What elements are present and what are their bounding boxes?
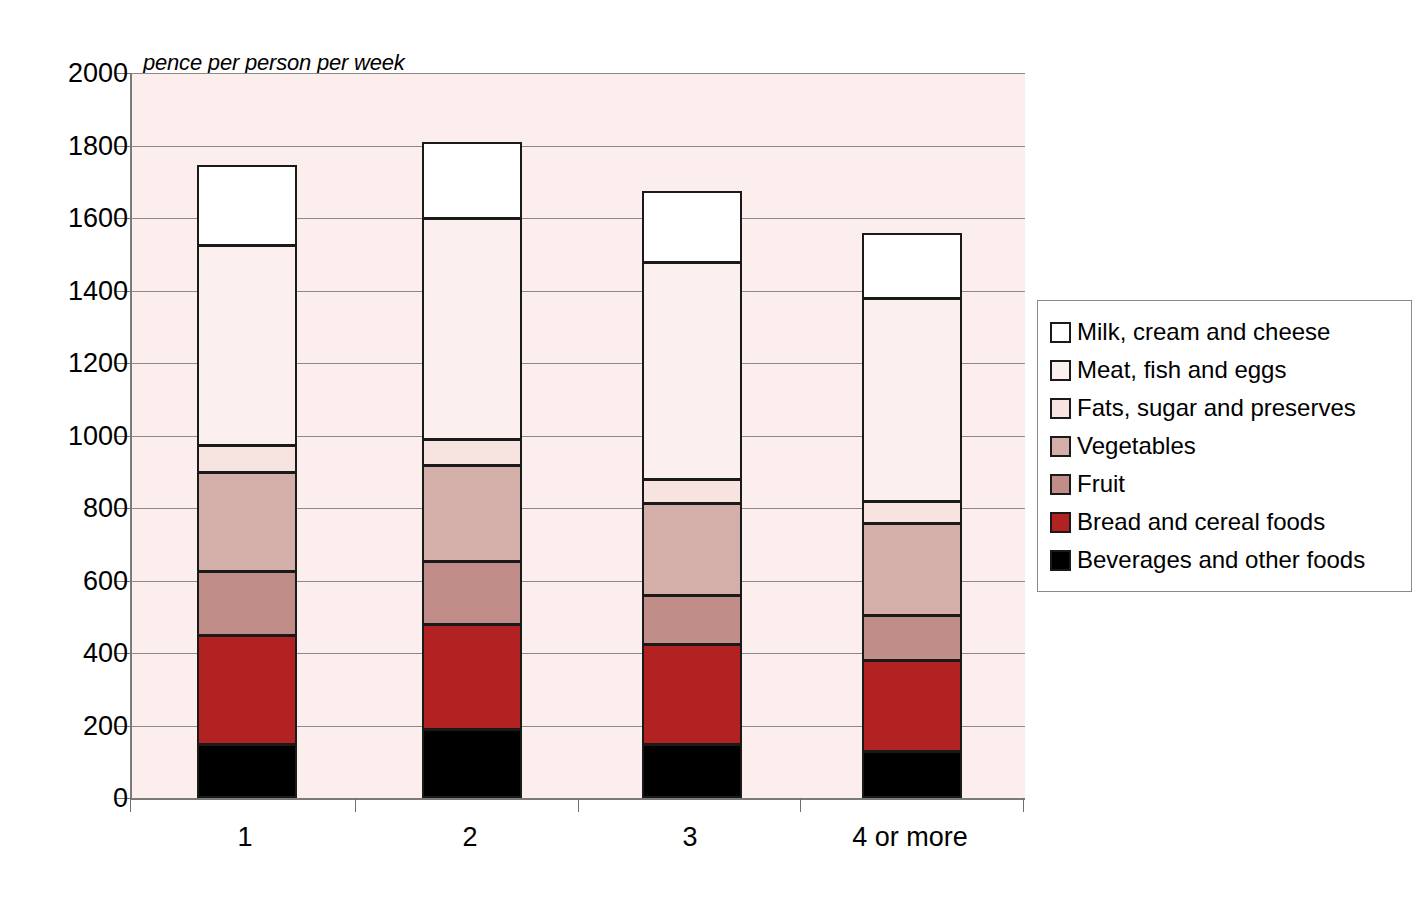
bar-segment[interactable]	[642, 503, 742, 595]
bar-segment[interactable]	[642, 595, 742, 644]
bar-segment[interactable]	[422, 624, 522, 729]
bar-stack[interactable]	[422, 73, 522, 798]
bar-segment[interactable]	[422, 218, 522, 439]
y-axis-tick-label: 1000	[8, 420, 128, 451]
bar-segment[interactable]	[197, 635, 297, 744]
bar-segment[interactable]	[862, 233, 962, 298]
x-axis-tick-label: 4 or more	[790, 822, 1030, 853]
legend-swatch-icon	[1050, 398, 1071, 419]
bar-segment[interactable]	[422, 561, 522, 624]
bar-segment[interactable]	[197, 472, 297, 572]
plot-area	[130, 73, 1025, 798]
y-axis-tick-label: 1800	[8, 130, 128, 161]
chart-container: pence per person per week 20001800160014…	[0, 0, 1422, 904]
x-axis-tick-mark	[800, 798, 801, 812]
legend-swatch-icon	[1050, 360, 1071, 381]
x-axis-tick-label: 2	[350, 822, 590, 853]
bar-segment[interactable]	[422, 465, 522, 561]
legend-item-label: Fruit	[1077, 472, 1125, 496]
legend-item[interactable]: Fruit	[1050, 465, 1401, 503]
legend-item-label: Fats, sugar and preserves	[1077, 396, 1356, 420]
y-axis-tick-label: 1400	[8, 275, 128, 306]
legend-item[interactable]: Fats, sugar and preserves	[1050, 389, 1401, 427]
bar-segment[interactable]	[862, 751, 962, 798]
x-axis-tick-mark	[355, 798, 356, 812]
legend-item-label: Bread and cereal foods	[1077, 510, 1325, 534]
bar-stack[interactable]	[862, 73, 962, 798]
legend-item-label: Milk, cream and cheese	[1077, 320, 1330, 344]
bar-segment[interactable]	[862, 501, 962, 523]
bar-segment[interactable]	[197, 245, 297, 444]
y-axis-tick-label: 2000	[8, 58, 128, 89]
legend-item[interactable]: Milk, cream and cheese	[1050, 313, 1401, 351]
legend: Milk, cream and cheeseMeat, fish and egg…	[1037, 300, 1412, 592]
y-axis-tick-label: 800	[8, 493, 128, 524]
x-axis-tick-mark	[578, 798, 579, 812]
legend-item[interactable]: Bread and cereal foods	[1050, 503, 1401, 541]
bar-segment[interactable]	[422, 729, 522, 798]
y-axis-tick-label: 1600	[8, 203, 128, 234]
x-axis-tick-label: 3	[570, 822, 810, 853]
bar-segment[interactable]	[642, 479, 742, 503]
y-axis-tick-label: 200	[8, 710, 128, 741]
bar-segment[interactable]	[642, 644, 742, 744]
legend-swatch-icon	[1050, 474, 1071, 495]
x-axis-tick-mark	[1023, 798, 1024, 812]
legend-swatch-icon	[1050, 436, 1071, 457]
bar-segment[interactable]	[642, 191, 742, 262]
legend-item[interactable]: Meat, fish and eggs	[1050, 351, 1401, 389]
bar-segment[interactable]	[862, 660, 962, 751]
x-axis-tick-label: 1	[125, 822, 365, 853]
x-axis-tick-mark	[130, 798, 131, 812]
bar-segment[interactable]	[642, 744, 742, 798]
legend-item-label: Vegetables	[1077, 434, 1196, 458]
bar-stack[interactable]	[197, 73, 297, 798]
legend-item-label: Meat, fish and eggs	[1077, 358, 1286, 382]
bar-stack[interactable]	[642, 73, 742, 798]
legend-swatch-icon	[1050, 512, 1071, 533]
y-axis-tick-label: 400	[8, 638, 128, 669]
y-axis-tick-label: 600	[8, 565, 128, 596]
y-axis-tick-label: 1200	[8, 348, 128, 379]
bar-segment[interactable]	[862, 523, 962, 615]
y-axis-tick-label: 0	[8, 783, 128, 814]
legend-item[interactable]: Vegetables	[1050, 427, 1401, 465]
bar-segment[interactable]	[197, 165, 297, 245]
bar-segment[interactable]	[642, 262, 742, 480]
legend-swatch-icon	[1050, 322, 1071, 343]
bar-segment[interactable]	[422, 439, 522, 464]
bar-segment[interactable]	[862, 615, 962, 660]
bar-segment[interactable]	[197, 571, 297, 634]
legend-swatch-icon	[1050, 550, 1071, 571]
bar-segment[interactable]	[422, 142, 522, 218]
bar-segment[interactable]	[197, 445, 297, 472]
legend-item[interactable]: Beverages and other foods	[1050, 541, 1401, 579]
bar-segment[interactable]	[862, 298, 962, 501]
bar-segment[interactable]	[197, 744, 297, 798]
legend-item-label: Beverages and other foods	[1077, 548, 1365, 572]
